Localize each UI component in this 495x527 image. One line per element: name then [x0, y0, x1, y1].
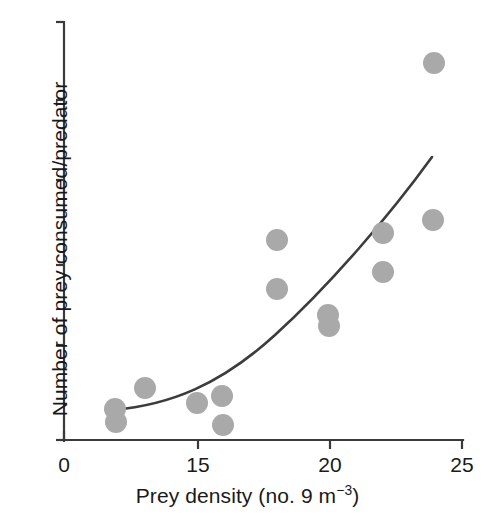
plot-area: 0 15 20 25 [0, 0, 495, 527]
data-point [423, 52, 445, 74]
x-axis-title: Prey density (no. 9 m−3) [0, 484, 495, 508]
data-points-group [104, 52, 445, 436]
data-point [422, 209, 444, 231]
data-point [212, 414, 234, 436]
data-point [134, 377, 156, 399]
y-axis-title: Number of prey consumed/predator [48, 29, 72, 469]
x-axis-title-tail: ) [352, 484, 359, 507]
x-axis-title-exponent: −3 [336, 482, 352, 498]
data-point [266, 278, 288, 300]
x-tick-label-25: 25 [450, 453, 473, 476]
x-tick-label-15: 15 [186, 453, 209, 476]
data-point [105, 411, 127, 433]
chart-figure: 0 15 20 25 Prey density (no. 9 m−3) Numb… [0, 0, 495, 527]
x-axis-title-main: Prey density (no. 9 m [136, 484, 337, 507]
data-point [186, 392, 208, 414]
data-point [266, 229, 288, 251]
x-tick-label-20: 20 [318, 453, 341, 476]
data-point [318, 315, 340, 337]
data-point [372, 222, 394, 244]
data-point [372, 261, 394, 283]
data-point [211, 385, 233, 407]
